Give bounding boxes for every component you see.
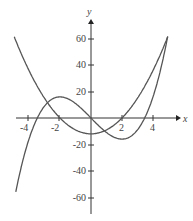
svg-text:40: 40 [76, 59, 86, 70]
y-label: y [86, 6, 92, 17]
svg-text:20: 20 [76, 86, 86, 97]
svg-text:-40: -40 [73, 165, 86, 176]
x-arrow-icon [176, 115, 181, 121]
svg-text:-20: -20 [73, 139, 86, 150]
svg-text:-60: -60 [73, 192, 86, 203]
svg-text:2: 2 [119, 122, 124, 133]
x-label: x [182, 113, 188, 124]
x-tick-labels: -4 -2 2 4 [20, 122, 155, 133]
svg-text:60: 60 [76, 33, 86, 44]
plot: x y -4 -2 2 4 60 40 20 -20 -40 -60 [0, 0, 193, 221]
svg-text:-2: -2 [51, 122, 59, 133]
svg-text:4: 4 [150, 122, 155, 133]
y-arrow-icon [88, 19, 94, 24]
svg-text:-4: -4 [20, 122, 28, 133]
chart: x y -4 -2 2 4 60 40 20 -20 -40 -60 [0, 0, 193, 221]
cubic-curve [16, 36, 168, 192]
